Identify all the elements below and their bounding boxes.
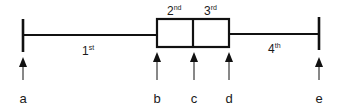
box-plot-diagram: 1st 2nd 3rd 4th a b c d e (0, 0, 340, 111)
quartile-label-2: 2nd (167, 4, 182, 18)
point-label-a: a (19, 91, 27, 106)
quartile-label-4: 4th (268, 42, 281, 56)
quartile-label-3: 3rd (204, 4, 217, 18)
arrow-d-icon (225, 52, 233, 80)
arrow-b-icon (153, 52, 161, 80)
point-label-b: b (153, 91, 160, 106)
point-label-e: e (315, 91, 322, 106)
arrow-a-icon (19, 57, 27, 80)
point-label-c: c (191, 91, 198, 106)
arrow-e-icon (315, 57, 323, 80)
point-label-d: d (225, 91, 232, 106)
arrow-c-icon (190, 52, 198, 80)
quartile-label-1: 1st (82, 44, 94, 58)
